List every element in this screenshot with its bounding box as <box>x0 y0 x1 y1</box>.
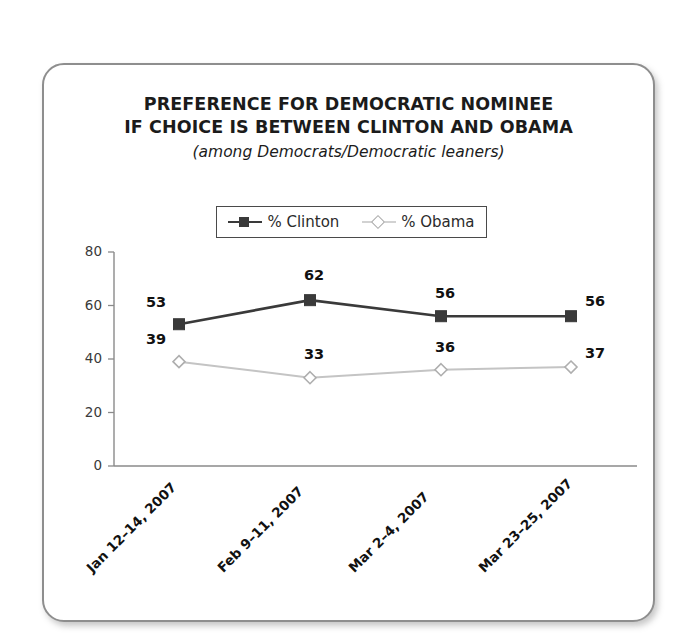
chart-card: PREFERENCE FOR DEMOCRATIC NOMINEE IF CHO… <box>42 63 655 622</box>
legend-entry-clinton[interactable]: % Clinton <box>228 213 339 231</box>
chart-axes <box>108 252 637 466</box>
data-value-label: 37 <box>585 345 605 361</box>
x-axis-tick-label: Mar 2–4, 2007 <box>345 488 432 575</box>
y-axis-tick-label: 80 <box>68 243 102 259</box>
data-value-label: 56 <box>435 285 455 301</box>
x-axis-tick-label: Feb 9–11, 2007 <box>214 483 306 575</box>
data-value-label: 36 <box>435 339 455 355</box>
x-axis-tick-label: Mar 23–25, 2007 <box>475 475 575 575</box>
y-axis-tick-label: 40 <box>68 350 102 366</box>
x-axis-tick-label: Jan 12–14, 2007 <box>83 479 179 575</box>
chart-title-line-2: IF CHOICE IS BETWEEN CLINTON AND OBAMA <box>44 116 653 139</box>
chart-legend: % Clinton % Obama <box>216 206 487 238</box>
y-axis-tick-label: 60 <box>68 297 102 313</box>
chart-subtitle: (among Democrats/Democratic leaners) <box>44 142 653 162</box>
legend-marker-square-icon <box>228 216 262 228</box>
legend-label-clinton: % Clinton <box>267 213 339 231</box>
chart-series <box>173 295 577 384</box>
chart-title-block: PREFERENCE FOR DEMOCRATIC NOMINEE IF CHO… <box>44 93 653 162</box>
y-axis-tick-label: 0 <box>68 457 102 473</box>
data-value-label: 39 <box>146 331 166 347</box>
data-value-label: 56 <box>585 293 605 309</box>
legend-entry-obama[interactable]: % Obama <box>362 213 474 231</box>
legend-label-obama: % Obama <box>401 213 474 231</box>
chart-title-line-1: PREFERENCE FOR DEMOCRATIC NOMINEE <box>44 93 653 116</box>
legend-marker-diamond-icon <box>362 216 396 228</box>
y-axis-tick-label: 20 <box>68 404 102 420</box>
data-value-label: 53 <box>146 294 166 310</box>
data-value-label: 33 <box>304 346 324 362</box>
data-value-label: 62 <box>304 267 324 283</box>
